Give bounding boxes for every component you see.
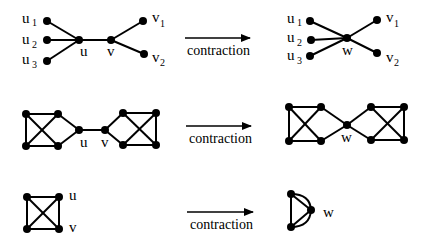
vertex bbox=[22, 110, 30, 118]
svg-text:1: 1 bbox=[394, 18, 399, 29]
vertex-v bbox=[55, 225, 63, 233]
row3-after-graph: w bbox=[287, 190, 334, 231]
row3-before-graph: u v bbox=[23, 187, 77, 235]
vertex-u bbox=[75, 126, 83, 134]
svg-text:u: u bbox=[287, 47, 295, 63]
vertex bbox=[287, 223, 295, 231]
vertex bbox=[23, 193, 31, 201]
row1-before-graph: u 1 u 2 u 3 u v v 1 v 2 bbox=[22, 9, 165, 70]
svg-text:2: 2 bbox=[32, 39, 37, 50]
svg-text:v: v bbox=[386, 9, 394, 25]
label-v1: v bbox=[152, 9, 160, 25]
contraction-diagram: u 1 u 2 u 3 u v v 1 v 2 contraction u 1 … bbox=[0, 0, 426, 248]
vertex-v1 bbox=[139, 17, 147, 25]
label-u: u bbox=[80, 43, 88, 59]
vertex-v bbox=[101, 126, 109, 134]
vertex-w bbox=[343, 121, 351, 129]
row2-after-graph: w bbox=[285, 103, 408, 145]
vertex bbox=[152, 141, 160, 149]
svg-text:3: 3 bbox=[297, 55, 302, 66]
label-v: v bbox=[101, 134, 109, 150]
label-u3: u bbox=[22, 51, 30, 67]
svg-text:2: 2 bbox=[297, 37, 302, 48]
svg-text:3: 3 bbox=[32, 59, 37, 70]
svg-text:2: 2 bbox=[160, 57, 165, 68]
vertex-u1 bbox=[306, 17, 314, 25]
vertex bbox=[119, 109, 127, 117]
row3-arrow: contraction bbox=[187, 212, 253, 232]
vertex bbox=[400, 103, 408, 111]
label-u1: u bbox=[22, 10, 30, 26]
vertex-v2 bbox=[140, 50, 148, 58]
vertex-u bbox=[55, 193, 63, 201]
row2-before-graph: u v bbox=[22, 109, 160, 150]
vertex bbox=[285, 103, 293, 111]
svg-text:2: 2 bbox=[394, 57, 399, 68]
label-w: w bbox=[342, 42, 353, 58]
vertex-w bbox=[307, 206, 315, 214]
svg-text:u: u bbox=[287, 10, 295, 26]
vertex-v1 bbox=[373, 16, 381, 24]
vertex-u2 bbox=[307, 36, 315, 44]
label-v: v bbox=[107, 43, 115, 59]
label-w: w bbox=[323, 204, 334, 220]
label-u: u bbox=[80, 134, 88, 150]
vertex bbox=[54, 110, 62, 118]
row1-after-graph: u 1 u 2 u 3 w v 1 v 2 bbox=[287, 9, 399, 68]
label-v2: v bbox=[152, 49, 160, 65]
arrow-label: contraction bbox=[187, 43, 250, 58]
arrow-label: contraction bbox=[190, 217, 253, 232]
vertex-u2 bbox=[43, 36, 51, 44]
label-w: w bbox=[341, 129, 352, 145]
vertex bbox=[23, 225, 31, 233]
vertex bbox=[22, 142, 30, 150]
vertex-v2 bbox=[373, 49, 381, 57]
vertex-u3 bbox=[306, 52, 314, 60]
row1-arrow: contraction bbox=[185, 38, 250, 58]
vertex bbox=[317, 137, 325, 145]
vertex bbox=[317, 103, 325, 111]
vertex bbox=[287, 190, 295, 198]
vertex bbox=[54, 142, 62, 150]
vertex-w bbox=[343, 34, 351, 42]
row2-arrow: contraction bbox=[186, 126, 252, 146]
svg-text:1: 1 bbox=[160, 18, 165, 29]
vertex bbox=[367, 136, 375, 144]
svg-text:1: 1 bbox=[297, 17, 302, 28]
label-u: u bbox=[69, 187, 77, 203]
vertex bbox=[119, 141, 127, 149]
vertex-u3 bbox=[43, 57, 51, 65]
svg-text:u: u bbox=[287, 29, 295, 45]
svg-text:v: v bbox=[386, 49, 394, 65]
vertex bbox=[285, 137, 293, 145]
vertex bbox=[400, 136, 408, 144]
label-u2: u bbox=[22, 31, 30, 47]
arrow-label: contraction bbox=[189, 131, 252, 146]
svg-text:1: 1 bbox=[32, 17, 37, 28]
vertex-u1 bbox=[43, 17, 51, 25]
vertex bbox=[367, 103, 375, 111]
label-v: v bbox=[69, 219, 77, 235]
vertex bbox=[152, 109, 160, 117]
